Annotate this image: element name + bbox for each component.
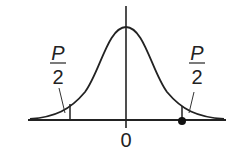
left-leader-line	[59, 88, 65, 113]
right-tail-label: P 2	[189, 42, 205, 88]
origin-label: 0	[120, 129, 131, 151]
right-leader-line	[189, 92, 194, 113]
right-numerator: P	[190, 42, 204, 64]
left-tail-label: P 2	[50, 42, 66, 88]
right-denominator: 2	[191, 66, 202, 88]
left-numerator: P	[51, 42, 65, 64]
normal-curve-diagram: P 2 P 2 0	[0, 0, 241, 158]
critical-value-dot	[178, 117, 186, 125]
left-denominator: 2	[52, 66, 63, 88]
